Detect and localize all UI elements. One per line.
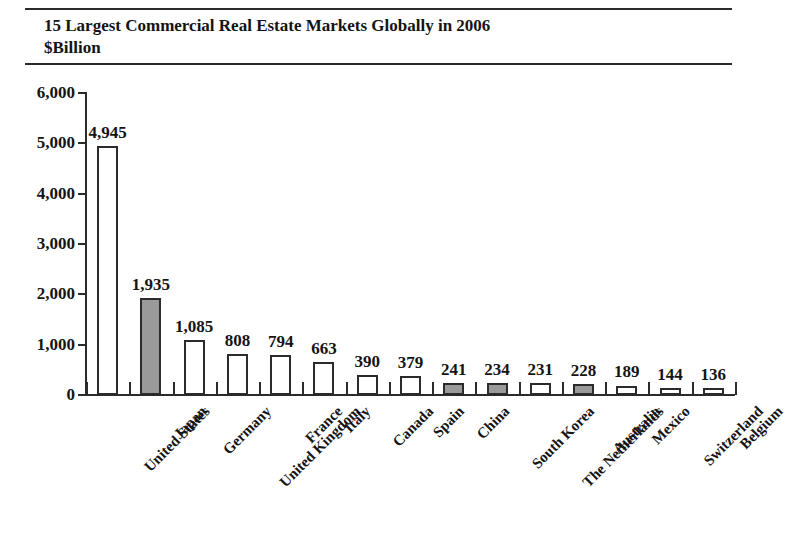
bar-value-label: 808 xyxy=(225,331,251,351)
bar-belgium[interactable] xyxy=(703,388,724,395)
x-axis-tick xyxy=(432,382,434,395)
y-axis-label: 4,000 xyxy=(37,184,75,204)
bar-china[interactable] xyxy=(443,383,464,395)
y-axis-label: 2,000 xyxy=(37,284,75,304)
y-axis-label: 0 xyxy=(67,385,76,405)
x-axis-category-label: China xyxy=(473,403,513,443)
bar-value-label: 231 xyxy=(528,360,554,380)
x-axis-tick xyxy=(475,382,477,395)
bar-value-label: 379 xyxy=(398,353,424,373)
x-axis-tick xyxy=(648,382,650,395)
x-axis-tick xyxy=(302,382,304,395)
bar-canada[interactable] xyxy=(357,375,378,395)
y-axis-tick xyxy=(78,394,86,396)
x-axis-category-label: Germany xyxy=(220,403,275,458)
bar-value-label: 228 xyxy=(571,361,597,381)
bar-value-label: 241 xyxy=(441,360,467,380)
x-axis-tick xyxy=(389,382,391,395)
x-axis-category-label: Spain xyxy=(429,403,467,441)
bar-value-label: 234 xyxy=(484,360,510,380)
y-axis-tick xyxy=(78,92,86,94)
y-axis-tick xyxy=(78,142,86,144)
x-axis-tick xyxy=(86,382,88,395)
x-axis-tick xyxy=(562,382,564,395)
bar-germany[interactable] xyxy=(184,340,205,395)
x-axis-tick xyxy=(173,382,175,395)
x-axis-tick xyxy=(129,382,131,395)
y-axis-label: 5,000 xyxy=(37,133,75,153)
bar-australia[interactable] xyxy=(573,384,594,395)
x-axis-tick xyxy=(735,382,737,395)
bar-value-label: 144 xyxy=(657,365,683,385)
x-axis-tick xyxy=(692,382,694,395)
bar-value-label: 1,085 xyxy=(175,317,213,337)
bar-value-label: 390 xyxy=(354,352,380,372)
bar-italy[interactable] xyxy=(313,362,334,395)
bar-value-label: 189 xyxy=(614,362,640,382)
y-axis-tick xyxy=(78,243,86,245)
bar-south-korea[interactable] xyxy=(487,383,508,395)
bar-japan[interactable] xyxy=(140,298,161,395)
x-axis-tick xyxy=(346,382,348,395)
bar-the-netherlands[interactable] xyxy=(530,383,551,395)
x-axis-tick xyxy=(259,382,261,395)
plot-area: 01,0002,0003,0004,0005,0006,0004,9451,93… xyxy=(86,93,735,395)
x-axis-tick xyxy=(519,382,521,395)
y-axis-tick xyxy=(78,344,86,346)
bar-mexico[interactable] xyxy=(616,386,637,396)
bar-value-label: 136 xyxy=(701,365,727,385)
bar-spain[interactable] xyxy=(400,376,421,395)
y-axis-label: 1,000 xyxy=(37,335,75,355)
bar-france[interactable] xyxy=(270,355,291,395)
bar-switzerland[interactable] xyxy=(660,388,681,395)
y-axis-tick xyxy=(78,193,86,195)
bar-value-label: 4,945 xyxy=(89,123,127,143)
bar-united-kingdom[interactable] xyxy=(227,354,248,395)
bar-value-label: 1,935 xyxy=(132,275,170,295)
y-axis-label: 3,000 xyxy=(37,234,75,254)
bar-value-label: 663 xyxy=(311,339,337,359)
x-axis-tick xyxy=(605,382,607,395)
y-axis-tick xyxy=(78,293,86,295)
bar-united-states[interactable] xyxy=(97,146,118,395)
x-axis-tick xyxy=(216,382,218,395)
bar-value-label: 794 xyxy=(268,332,294,352)
y-axis-label: 6,000 xyxy=(37,83,75,103)
x-axis-category-label: South Korea xyxy=(529,403,598,472)
